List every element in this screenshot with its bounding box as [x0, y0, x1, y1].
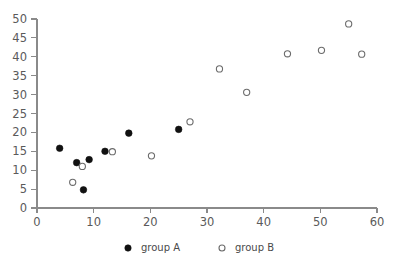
x-tick-label: 40 — [256, 215, 271, 229]
data-point — [187, 119, 193, 125]
data-point — [109, 149, 115, 155]
data-point — [86, 156, 93, 163]
data-point — [148, 153, 154, 159]
y-tick-label: 35 — [12, 69, 27, 83]
y-tick-label: 15 — [12, 144, 27, 158]
data-point — [102, 148, 109, 155]
data-point — [73, 159, 80, 166]
y-tick-label: 10 — [12, 163, 27, 177]
legend: group Agroup B — [125, 242, 274, 253]
data-point — [346, 21, 352, 27]
x-tick-label: 10 — [86, 215, 101, 229]
y-axis-tick-labels: 05101520253035404550 — [12, 12, 27, 215]
data-point — [284, 51, 290, 57]
data-point — [175, 126, 182, 133]
data-point — [318, 47, 324, 53]
series-group-b-points — [70, 21, 365, 186]
y-tick-label: 45 — [12, 31, 27, 45]
y-tick-label: 50 — [12, 12, 27, 26]
x-tick-label: 20 — [143, 215, 158, 229]
legend-marker-group-a — [125, 245, 131, 251]
data-point — [56, 145, 63, 152]
legend-label-group-b: group B — [235, 242, 274, 253]
y-tick-label: 30 — [12, 88, 27, 102]
data-point — [79, 163, 85, 169]
y-tick-label: 5 — [20, 182, 27, 196]
data-point — [359, 51, 365, 57]
x-tick-label: 30 — [200, 215, 215, 229]
x-tick-label: 0 — [33, 215, 40, 229]
legend-marker-group-b — [219, 245, 225, 251]
x-axis: 0102030405060 — [33, 208, 384, 229]
x-tick-label: 50 — [313, 215, 328, 229]
data-point — [70, 179, 76, 185]
scatter-plot-canvas: 05101520253035404550 0102030405060 group… — [0, 0, 394, 277]
y-axis: 05101520253035404550 — [12, 12, 37, 215]
y-axis-ticks — [31, 19, 37, 208]
x-axis-ticks — [37, 208, 377, 213]
y-tick-label: 0 — [20, 201, 27, 215]
x-axis-tick-labels: 0102030405060 — [33, 215, 384, 229]
data-point — [244, 89, 250, 95]
data-point — [126, 130, 133, 137]
scatter-chart: 05101520253035404550 0102030405060 group… — [0, 0, 394, 277]
y-tick-label: 20 — [12, 125, 27, 139]
data-point — [216, 66, 222, 72]
y-tick-label: 40 — [12, 50, 27, 64]
legend-label-group-a: group A — [141, 242, 180, 253]
data-point — [80, 187, 87, 194]
y-tick-label: 25 — [12, 107, 27, 121]
x-tick-label: 60 — [370, 215, 385, 229]
